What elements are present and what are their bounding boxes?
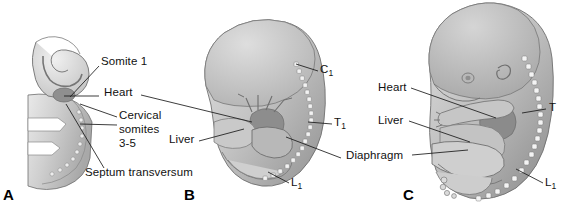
label-t1-vertebra: T1: [334, 116, 346, 131]
panel-c-embryo: [429, 3, 553, 201]
panel-a-embryo: [28, 37, 92, 190]
label-diaphragm: Diaphragm: [346, 149, 403, 163]
cervical-line-3: 3-5: [119, 137, 136, 149]
label-c1-vertebra: C1: [320, 63, 333, 78]
l1-subscript-c: 1: [552, 181, 557, 191]
panel-letter-c: C: [403, 186, 414, 203]
t1-subscript: 1: [341, 121, 346, 131]
c1-subscript: 1: [328, 68, 333, 78]
label-l1-vertebra-c: L1: [545, 176, 556, 191]
label-l1-vertebra-b: L1: [291, 176, 302, 191]
panel-letter-a: A: [3, 186, 14, 203]
label-septum-transversum: Septum transversum: [85, 166, 193, 180]
embryology-figure: Somite 1 Heart Cervical somites 3-5 Sept…: [0, 0, 572, 206]
label-liver-b: Liver: [169, 133, 194, 147]
l1-letter-b: L: [291, 176, 298, 188]
label-heart-a: Heart: [104, 86, 133, 100]
label-t-vertebra-c: T: [549, 101, 556, 115]
panel-b-embryo: [205, 20, 326, 187]
cervical-line-1: Cervical: [119, 109, 161, 121]
panel-letter-b: B: [184, 186, 195, 203]
l1-subscript-b: 1: [298, 181, 303, 191]
l1-letter-c: L: [545, 176, 552, 188]
label-liver-c: Liver: [378, 114, 403, 128]
cervical-line-2: somites: [119, 123, 159, 135]
label-somite-1: Somite 1: [101, 55, 147, 69]
label-heart-c: Heart: [378, 81, 407, 95]
